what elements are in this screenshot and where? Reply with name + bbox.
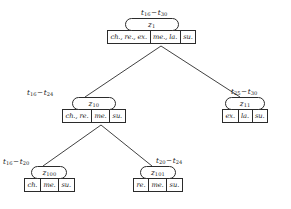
node-range-label-z11: t25−t30 (231, 87, 257, 96)
node-cell[interactable]: me. (41, 179, 59, 191)
node-cell[interactable]: me., la. (151, 31, 181, 43)
node-cell[interactable]: ch., re. (63, 110, 92, 122)
tree-node-z101[interactable]: t20−t24 z101 re. me. su. (133, 166, 183, 192)
tree-diagram-canvas: t16−t30 z1 ch., re., ex. me., la. su. t1… (0, 0, 291, 209)
edge-z1-z10 (85, 46, 161, 97)
node-cell[interactable]: ch., re., ex. (108, 31, 151, 43)
node-capsule-z1[interactable]: z1 (125, 18, 179, 31)
node-cell[interactable]: su. (59, 179, 74, 191)
node-cell[interactable]: ch. (25, 179, 41, 191)
node-cell[interactable]: su. (181, 31, 196, 43)
node-cell[interactable]: la. (239, 110, 253, 122)
node-range-label-z101: t20−t24 (156, 156, 182, 165)
node-cell[interactable]: ex. (223, 110, 239, 122)
node-cell[interactable]: me. (92, 110, 110, 122)
node-cell-row-z10: ch., re. me. su. (62, 109, 126, 123)
node-cell[interactable]: su. (253, 110, 268, 122)
node-capsule-z10[interactable]: z10 (72, 97, 116, 110)
edge-z10-z101 (101, 125, 152, 166)
tree-node-z11[interactable]: t25−t30 z11 ex. la. su. (222, 97, 268, 123)
node-cell-row-z101: re. me. su. (133, 178, 183, 192)
node-cell[interactable]: su. (167, 179, 182, 191)
node-capsule-z101[interactable]: z101 (140, 166, 176, 179)
node-cell[interactable]: su. (110, 110, 125, 122)
tree-node-z10[interactable]: t16−t24 z10 ch., re. me. su. (62, 97, 126, 123)
node-range-label-z1: t16−t30 (141, 8, 167, 17)
node-cell-row-z100: ch. me. su. (24, 178, 75, 192)
edge-z10-z100 (43, 125, 101, 166)
tree-node-z100[interactable]: t16−t20 z100 ch. me. su. (24, 166, 75, 192)
edge-z1-z11 (161, 46, 240, 97)
node-cell-row-z1: ch., re., ex. me., la. su. (107, 30, 196, 44)
node-capsule-z100[interactable]: z100 (31, 166, 67, 179)
node-capsule-z11[interactable]: z11 (225, 97, 265, 110)
node-range-label-z10: t16−t24 (27, 88, 53, 97)
node-cell-row-z11: ex. la. su. (222, 109, 268, 123)
node-range-label-z100: t16−t20 (3, 157, 29, 166)
node-cell[interactable]: me. (149, 179, 167, 191)
tree-node-z1[interactable]: t16−t30 z1 ch., re., ex. me., la. su. (107, 18, 196, 44)
node-cell[interactable]: re. (134, 179, 149, 191)
